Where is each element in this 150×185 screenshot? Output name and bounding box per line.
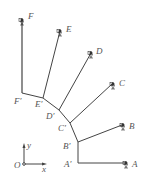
bar-CC1 [70, 84, 112, 123]
bar-DD1 [59, 53, 91, 110]
axis-y-label: y [26, 140, 31, 150]
label-B-prime: B′ [63, 141, 71, 151]
label-D: D [95, 46, 103, 56]
label-F-prime: F′ [13, 96, 22, 106]
support-icon [19, 19, 128, 169]
bar-EE1 [43, 31, 60, 98]
mechanism-diagram: A B C D E F A′ B′ C′ D′ E′ F′ O x y [0, 0, 150, 185]
diagram-canvas: A B C D E F A′ B′ C′ D′ E′ F′ O x y [0, 0, 150, 185]
axis-origin-label: O [14, 160, 21, 170]
axis-x-label: x [41, 164, 46, 174]
label-E: E [65, 24, 72, 34]
label-A-prime: A′ [63, 159, 72, 169]
label-D-prime: D′ [45, 111, 55, 121]
chain-polyline [22, 93, 78, 163]
label-E-prime: E′ [34, 99, 43, 109]
label-A: A [131, 159, 138, 169]
label-C: C [119, 78, 126, 88]
label-C-prime: C′ [58, 123, 67, 133]
label-F: F [27, 11, 34, 21]
label-B: B [129, 121, 135, 131]
bar-BB1 [78, 125, 122, 142]
